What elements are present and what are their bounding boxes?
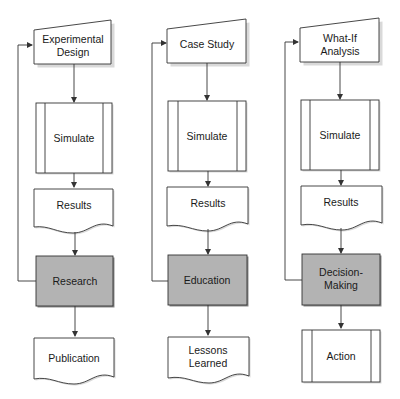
node-label: Case Study [180,38,235,50]
node-results[interactable]: Results [167,187,250,233]
node-label: Simulate [187,130,228,142]
node-label: Design [57,46,90,58]
node-simulate[interactable]: Simulate [301,100,381,172]
node-label: Analysis [320,45,359,57]
node-label: Results [323,196,358,208]
feedback-loop-arrow [152,43,168,281]
node-simulate[interactable]: Simulate [36,103,114,175]
node-label: What-If [323,32,357,44]
node-experimental-design[interactable]: Experimental Design [34,20,115,68]
node-label: Results [56,199,91,211]
column-education: Case Study Simulate Results Education Le… [152,19,251,385]
node-label: Research [53,275,98,287]
node-education[interactable]: Education [168,255,249,307]
node-case-study[interactable]: Case Study [167,19,250,67]
node-results[interactable]: Results [34,189,115,235]
node-lessons-learned[interactable]: Lessons Learned [168,337,251,385]
node-label: Learned [189,357,228,369]
node-simulate[interactable]: Simulate [168,101,248,173]
node-decision-making[interactable]: Decision- Making [302,254,382,307]
node-label: Results [190,197,225,209]
column-decision: What-If Analysis Simulate Results Decisi… [285,18,384,384]
feedback-loop-arrow [18,45,36,281]
node-research[interactable]: Research [36,256,115,308]
node-label: Experimental [42,33,103,45]
column-research: Experimental Design Simulate Results Res… [18,20,116,386]
node-label: Publication [48,352,100,364]
node-label: Action [326,350,355,362]
node-results[interactable]: Results [301,186,384,232]
node-label: Decision- [319,266,363,278]
node-label: Making [324,279,358,291]
feedback-loop-arrow [285,42,303,280]
node-label: Education [184,274,231,286]
node-publication[interactable]: Publication [34,338,116,386]
node-label: Simulate [54,132,95,144]
node-what-if-analysis[interactable]: What-If Analysis [300,18,383,66]
flowchart-canvas: Experimental Design Simulate Results Res… [0,0,400,399]
node-action[interactable]: Action [302,330,382,384]
node-label: Simulate [320,129,361,141]
node-label: Lessons [188,344,227,356]
